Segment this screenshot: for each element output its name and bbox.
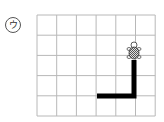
turtle-icon <box>127 42 141 59</box>
turtle-grid-diagram <box>0 0 164 122</box>
grid <box>37 15 155 116</box>
